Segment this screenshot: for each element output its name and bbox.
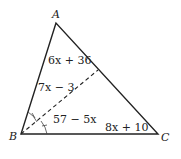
angle-a-expression: 6x + 36	[48, 54, 91, 67]
vertex-label-c: C	[161, 131, 170, 144]
angle-arc-lower	[41, 121, 47, 134]
vertex-label-a: A	[51, 8, 60, 21]
arc-tick-lower	[42, 125, 47, 126]
vertex-label-b: B	[8, 130, 17, 143]
angle-c-expression: 8x + 10	[105, 121, 148, 134]
angle-abd-expression: 7x − 3	[38, 81, 74, 94]
triangle-diagram: A B C 6x + 36 7x − 3 57 − 5x 8x + 10	[0, 0, 181, 159]
angle-dbc-expression: 57 − 5x	[53, 113, 97, 126]
